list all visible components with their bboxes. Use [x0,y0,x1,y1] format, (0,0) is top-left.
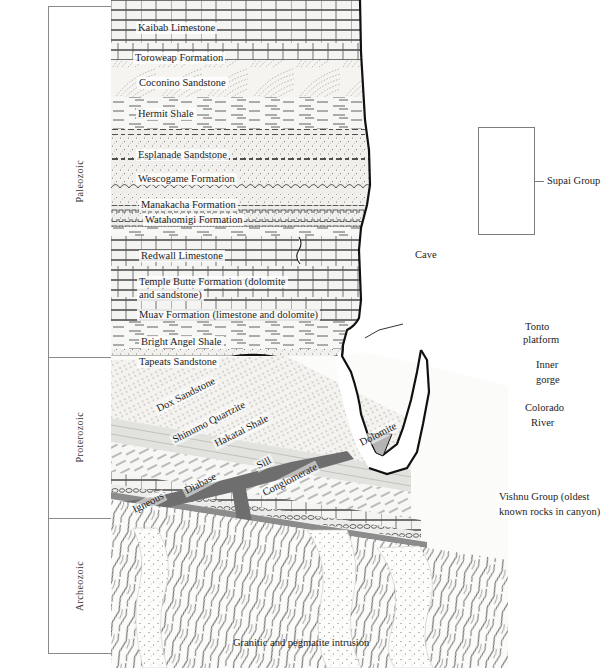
era-label-proterozoic: Proterozoic [48,357,111,518]
formation-label: Kaibab Limestone [136,22,217,34]
era-label-paleozoic: Paleozoic [48,6,111,357]
formation-label: Watahomigi Formation [143,214,244,226]
feature-label-vishnu2: known rocks in canyon) [497,506,602,518]
formation-label: Muav Formation (limestone and dolomite) [137,309,320,321]
figure-caption: Granitic and pegmatite intrusion [233,637,369,649]
cross-section-canvas: Kaibab LimestoneToroweap FormationCoconi… [111,0,508,668]
formation-label: Wescogame Formation [136,173,237,185]
formation-label: Redwall Limestone [139,250,225,262]
supai-group-label: Supai Group [547,175,600,187]
tonto-leader [365,324,403,338]
supai-group-bracket [478,127,535,235]
formation-label: Coconino Sandstone [137,77,228,89]
feature-label-inner-gorge2: gorge [534,374,562,386]
era-label-archeozoic: Archeozoic [48,518,111,654]
era-label-text: Paleozoic [74,160,85,202]
feature-label-colorado: Colorado [523,402,566,414]
feature-label-tonto: Tonto [523,321,551,333]
formation-label: Tapeats Sandstone [137,356,219,368]
supai-group-tick [535,181,544,182]
cross-section-graphic [111,0,508,668]
formation-label: Bright Angel Shale [139,336,224,348]
formation-label: Hermit Shale [136,108,196,120]
formation-label: Esplanade Sandstone [136,149,229,161]
feature-label-tonto2: platform [521,334,561,346]
formation-label: Manakacha Formation [139,199,238,211]
feature-label-inner-gorge: Inner [534,359,560,371]
formation-label: Temple Butte Formation (dolomite [137,276,288,288]
era-label-text: Archeozoic [74,561,85,611]
feature-label-colorado2: River [529,417,556,429]
formation-label: and sandstone) [137,289,204,301]
feature-label-cave: Cave [413,249,439,261]
formation-label: Toroweap Formation [133,52,225,64]
feature-label-vishnu: Vishnu Group (oldest [497,491,591,503]
era-label-text: Proterozoic [74,412,85,463]
